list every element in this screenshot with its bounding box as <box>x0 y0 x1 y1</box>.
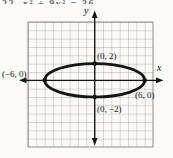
point-label-bottom: (0, −2) <box>97 104 122 114</box>
point-dot-neg6-0 <box>42 78 47 83</box>
point-dot-6-0 <box>142 78 147 83</box>
coordinate-plane <box>0 0 173 158</box>
x-axis-label: x <box>157 63 161 73</box>
point-dot-0-2 <box>92 61 97 66</box>
point-dot-0-neg2 <box>92 95 97 100</box>
x-axis-right-arrow-icon <box>156 77 164 83</box>
y-axis-label: y <box>84 6 88 16</box>
y-axis-top-arrow-icon <box>92 11 98 19</box>
point-label-left: (−6, 0) <box>2 69 27 79</box>
ellipse-graph-figure: 22. x² + 9y² = 36 (0, 2) (0, −2) (−6, 0)… <box>0 0 173 158</box>
point-label-top: (0, 2) <box>97 51 117 61</box>
point-label-right: (6, 0) <box>135 90 155 100</box>
